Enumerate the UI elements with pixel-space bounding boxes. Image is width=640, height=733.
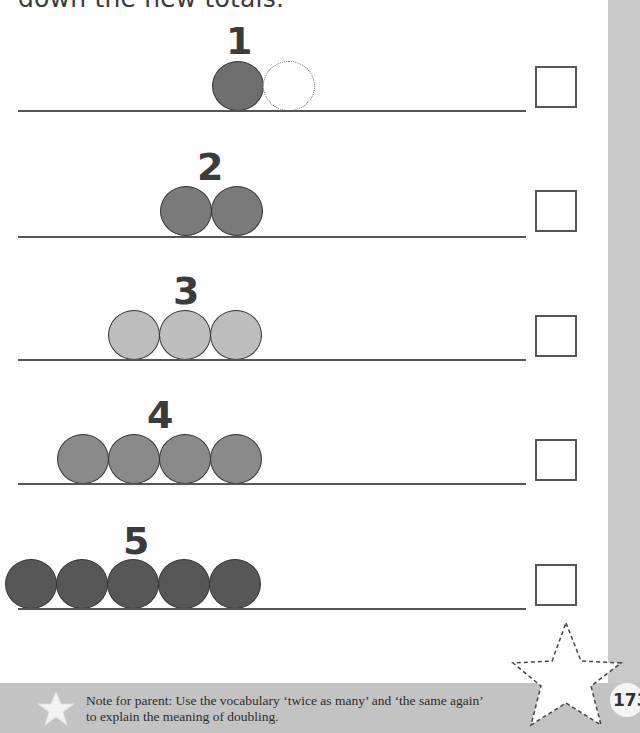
doubling-row-5: 5 — [0, 0, 600, 110]
baseline — [18, 483, 526, 485]
counter — [158, 559, 210, 609]
parent-note-text: Note for parent: Use the vocabulary ‘twi… — [86, 693, 486, 725]
row-number: 4 — [147, 396, 173, 434]
answer-box[interactable] — [535, 439, 577, 481]
counter — [108, 434, 160, 484]
page-number-badge: 173 — [610, 683, 640, 717]
counter — [56, 559, 108, 609]
row-number: 5 — [123, 522, 149, 560]
star-icon — [36, 690, 76, 728]
counter-group — [160, 186, 262, 238]
baseline — [18, 110, 526, 112]
counter — [57, 434, 109, 484]
counter — [210, 434, 262, 484]
counter-group — [5, 559, 260, 611]
baseline — [18, 236, 526, 238]
baseline — [18, 608, 526, 610]
counter — [209, 559, 261, 609]
counter — [159, 434, 211, 484]
counter-group — [108, 310, 261, 362]
counter — [160, 186, 212, 236]
counter — [210, 310, 262, 360]
counter — [107, 559, 159, 609]
counter — [108, 310, 160, 360]
counter — [5, 559, 57, 609]
row-number: 2 — [197, 148, 223, 186]
counter — [211, 186, 263, 236]
dashed-star-icon — [508, 618, 623, 730]
answer-box[interactable] — [535, 315, 577, 357]
answer-box[interactable] — [535, 190, 577, 232]
baseline — [18, 359, 526, 361]
row-number: 3 — [173, 272, 199, 310]
answer-box[interactable] — [535, 564, 577, 606]
counter-group — [57, 434, 261, 486]
counter — [159, 310, 211, 360]
